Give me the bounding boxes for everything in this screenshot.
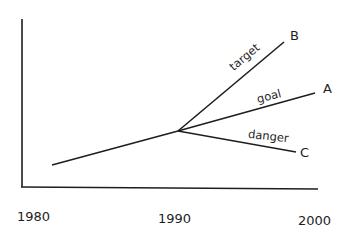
goal-line (178, 93, 315, 131)
x-axis (21, 187, 318, 189)
tick-1990: 1990 (158, 211, 191, 226)
tick-1980: 1980 (17, 209, 50, 224)
history-line (52, 131, 178, 165)
end-label-b: B (290, 28, 299, 43)
target-label: target (227, 40, 263, 74)
danger-label: danger (247, 127, 289, 145)
scenario-diagram: target goal danger B A C 1980 1990 2000 (0, 0, 351, 242)
end-label-c: C (300, 145, 309, 160)
tick-2000: 2000 (298, 213, 331, 228)
end-label-a: A (323, 81, 332, 96)
target-line (178, 42, 284, 131)
